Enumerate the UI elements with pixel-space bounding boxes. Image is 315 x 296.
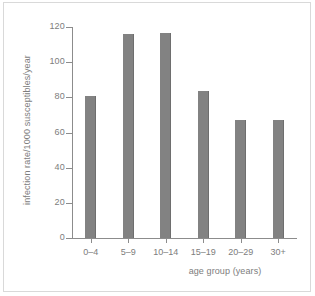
y-tick-mark [66,203,72,204]
bar-0-4 [85,96,96,238]
y-tick-mark [66,27,72,28]
x-tick-mark [278,238,279,243]
x-tick-label: 30+ [248,247,308,257]
x-tick-mark [241,238,242,243]
x-tick-mark [91,238,92,243]
y-axis-line [72,27,73,239]
y-axis-title: infection rate/1000 susceptibles/year [22,25,32,235]
x-tick-mark [128,238,129,243]
x-tick-mark [203,238,204,243]
bar-10-14 [160,33,171,238]
x-axis-title: age group (years) [150,266,300,276]
x-axis-line [72,238,297,239]
y-tick-mark [66,133,72,134]
x-tick-mark [166,238,167,243]
bar-30+ [273,120,284,238]
y-tick-mark [66,97,72,98]
y-tick-mark [66,168,72,169]
bar-chart: 020406080100120 0–45–910–1415–1920–2930+… [0,0,315,296]
bar-15-19 [198,91,209,238]
y-tick-mark [66,62,72,63]
y-tick-mark [66,238,72,239]
bar-20-29 [235,120,246,238]
bar-5-9 [123,34,134,238]
